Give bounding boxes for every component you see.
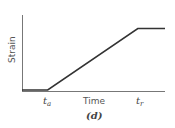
strain-time-chart: Strain Time ta tr (d) — [0, 0, 175, 128]
x-axis-label: Time — [82, 96, 105, 106]
y-axis-label: Strain — [7, 36, 17, 63]
strain-line — [22, 29, 165, 91]
figure-caption: (d) — [86, 110, 103, 121]
tick-ta: ta — [43, 95, 51, 108]
tick-tr: tr — [136, 95, 144, 108]
